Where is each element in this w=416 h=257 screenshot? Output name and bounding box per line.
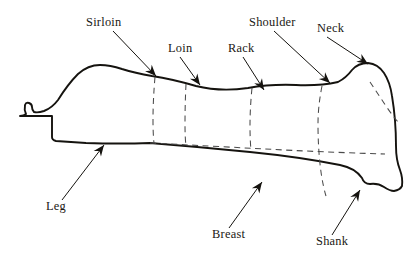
carcass-cuts-illustration: SirloinLoinRackShoulderNeckLegBreastShan… (0, 0, 416, 257)
leader-line-shank (332, 190, 360, 235)
cut-label-shoulder: Shoulder (249, 15, 296, 29)
cut-label-neck: Neck (317, 21, 345, 35)
arrow-head-shank (350, 188, 364, 202)
carcass-outline-shape (20, 63, 402, 191)
cut-label-rack: Rack (228, 41, 255, 55)
leader-line-shoulder (274, 31, 330, 83)
cut-label-shank: Shank (316, 234, 349, 248)
cut-label-loin: Loin (168, 41, 192, 55)
cut-label-leg: Leg (46, 199, 66, 213)
cuts-diagram-root: SirloinLoinRackShoulderNeckLegBreastShan… (0, 0, 416, 257)
leader-line-breast (229, 182, 262, 228)
leader-line-leg (62, 145, 104, 200)
cut-label-sirloin: Sirloin (86, 15, 122, 29)
cut-label-breast: Breast (212, 227, 245, 241)
arrow-head-breast (252, 179, 266, 193)
